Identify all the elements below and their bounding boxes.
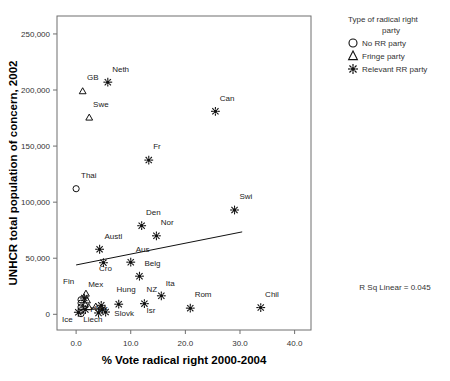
- point-label-belg: Belg: [144, 259, 160, 268]
- marker-star-ray: [86, 300, 88, 302]
- y-axis-title: UNHCR total population of concern, 2002: [7, 61, 19, 286]
- marker-star-core: [106, 80, 110, 84]
- legend-label-0: No RR party: [362, 39, 406, 48]
- marker-circle: [73, 186, 79, 192]
- point-label-rom: Rom: [195, 290, 212, 299]
- marker-star-ray: [192, 305, 194, 307]
- legend-marker-triangle: [349, 51, 358, 60]
- point-label-den: Den: [146, 208, 161, 217]
- marker-star-ray: [116, 301, 118, 303]
- marker-star-ray: [262, 309, 264, 311]
- point-label-thai: Thai: [81, 171, 97, 180]
- x-tick-label: 0.0: [71, 339, 83, 348]
- marker-star-ray: [96, 246, 98, 248]
- marker-star-ray: [217, 113, 219, 115]
- x-tick-label: 10.0: [123, 339, 139, 348]
- marker-star-ray: [212, 113, 214, 115]
- x-axis-title: % Vote radical right 2000-2004: [102, 354, 267, 366]
- marker-star-ray: [258, 304, 260, 306]
- legend-marker-star-ray: [355, 71, 357, 73]
- marker-star-core: [76, 310, 80, 314]
- y-tick-label: 200,000: [21, 86, 50, 95]
- marker-star-ray: [236, 207, 238, 209]
- point-label-swe: Swe: [93, 100, 109, 109]
- marker-star-ray: [141, 278, 143, 280]
- point-label-fin: Fin: [63, 277, 74, 286]
- point-label-gb: GB: [87, 73, 99, 82]
- point-label-aus: Aus: [136, 245, 150, 254]
- legend-title-line2: party: [382, 26, 400, 35]
- marker-star-core: [159, 294, 163, 298]
- marker-star-ray: [146, 157, 148, 159]
- legend-marker-star-ray: [349, 71, 351, 73]
- x-tick-label: 40.0: [287, 339, 303, 348]
- marker-star-ray: [158, 293, 160, 295]
- rsq-annotation: R Sq Linear = 0.045: [359, 283, 431, 292]
- legend-label-1: Fringe party: [362, 52, 405, 61]
- marker-star-core: [104, 310, 108, 314]
- marker-star-ray: [258, 309, 260, 311]
- marker-triangle: [83, 290, 90, 296]
- marker-star-ray: [217, 108, 219, 110]
- marker-star-ray: [120, 301, 122, 303]
- marker-star-ray: [101, 246, 103, 248]
- marker-star-ray: [116, 306, 118, 308]
- point-label-ita: Ita: [166, 279, 175, 288]
- marker-star-core: [214, 109, 218, 113]
- marker-star-ray: [146, 301, 148, 303]
- marker-star-ray: [136, 273, 138, 275]
- marker-star-core: [117, 302, 121, 306]
- marker-star-ray: [109, 79, 111, 81]
- marker-star-ray: [141, 301, 143, 303]
- marker-star-ray: [236, 211, 238, 213]
- legend-label-2: Relevant RR party: [362, 65, 427, 74]
- marker-star-ray: [105, 260, 107, 262]
- legend-marker-star-core: [351, 67, 355, 71]
- y-tick-label: 250,000: [21, 30, 50, 39]
- y-tick-label: 100,000: [21, 198, 50, 207]
- marker-star-core: [140, 224, 144, 228]
- point-label-ice: Ice: [62, 315, 73, 324]
- marker-star-core: [84, 308, 88, 312]
- marker-star-ray: [141, 305, 143, 307]
- marker-star-core: [155, 234, 159, 238]
- scatter-plot-figure: 050,000100,000150,000200,000250,0000.010…: [0, 0, 450, 381]
- marker-star-ray: [163, 297, 165, 299]
- point-label-neth: Neth: [112, 65, 129, 74]
- marker-star-ray: [231, 207, 233, 209]
- marker-triangle: [79, 88, 86, 94]
- marker-star-ray: [143, 223, 145, 225]
- marker-star-ray: [75, 314, 77, 316]
- marker-star-core: [147, 158, 151, 162]
- marker-triangle: [86, 114, 93, 120]
- legend-marker-star-ray: [355, 65, 357, 67]
- marker-star-ray: [132, 259, 134, 261]
- point-label-liech: Liech: [83, 315, 102, 324]
- point-label-fr: Fr: [153, 142, 161, 151]
- y-tick-label: 0: [46, 310, 51, 319]
- marker-star-ray: [150, 157, 152, 159]
- x-tick-label: 20.0: [178, 339, 194, 348]
- marker-star-ray: [158, 233, 160, 235]
- marker-star-core: [98, 247, 102, 251]
- legend-marker-star-ray: [349, 65, 351, 67]
- marker-star-ray: [132, 264, 134, 266]
- marker-star-ray: [105, 84, 107, 86]
- marker-star-ray: [139, 223, 141, 225]
- marker-star-core: [188, 306, 192, 310]
- marker-star-core: [97, 311, 101, 315]
- marker-star-ray: [163, 293, 165, 295]
- marker-star-ray: [212, 108, 214, 110]
- marker-star-ray: [105, 79, 107, 81]
- marker-star-ray: [187, 310, 189, 312]
- marker-star-ray: [120, 306, 122, 308]
- y-tick-label: 150,000: [21, 142, 50, 151]
- marker-star-ray: [187, 305, 189, 307]
- point-label-isr: Isr: [147, 306, 156, 315]
- marker-star-ray: [143, 227, 145, 229]
- point-label-can: Can: [220, 94, 235, 103]
- marker-star-ray: [107, 314, 109, 316]
- marker-star-ray: [153, 237, 155, 239]
- legend-title-line1: Type of radical right: [348, 15, 419, 24]
- marker-star-core: [259, 306, 263, 310]
